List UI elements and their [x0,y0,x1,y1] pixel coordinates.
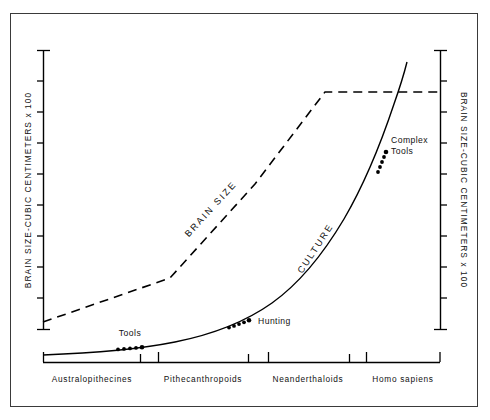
marker-dot [116,348,120,352]
annotation-tools: Tools [119,328,141,338]
annotation-complex-tools-line1: Complex [391,135,428,145]
marker-dot [134,346,138,350]
marker-cluster-complex-tools [376,150,388,174]
chart-figure: BRAIN SIZE-CUBIC CENTIMETERS x 100 BRAIN… [0,0,490,420]
marker-dot [247,318,252,323]
marker-dot [122,347,126,351]
left-axis-title: BRAIN SIZE-CUBIC CENTIMETERS x 100 [23,92,33,288]
series-culture-line [43,62,407,355]
marker-dot [242,320,246,324]
x-tick-label-homo-sapiens: Homo sapiens [372,374,433,384]
marker-cluster-hunting [227,318,251,330]
marker-dot [376,170,380,174]
annotation-hunting: Hunting [258,316,291,326]
marker-dot [140,345,145,350]
x-tick-label-pithecanthropoids: Pithecanthropoids [164,374,242,384]
x-axis [43,352,440,363]
plot-canvas: BRAIN SIZE-CUBIC CENTIMETERS x 100 BRAIN… [0,0,490,420]
marker-dot [384,150,389,155]
annotation-complex-tools-line2: Tools [391,146,413,156]
marker-dot [128,347,132,351]
marker-dot [232,324,236,328]
marker-dot [382,155,386,159]
series-brain-size-label: BRAIN SIZE [183,179,239,239]
marker-dot [237,322,241,326]
right-axis-title: BRAIN SIZE-CUBIC CENTIMETERS x 100 [459,92,469,288]
marker-dot [378,165,382,169]
series-brain-size-line [43,92,440,322]
x-tick-label-australopithecines: Australopithecines [52,374,132,384]
series-culture-label: CULTURE [296,222,336,276]
marker-dot [380,160,384,164]
marker-dot [227,326,231,330]
left-axis [37,50,50,330]
x-tick-label-neanderthaloids: Neanderthaloids [273,374,344,384]
